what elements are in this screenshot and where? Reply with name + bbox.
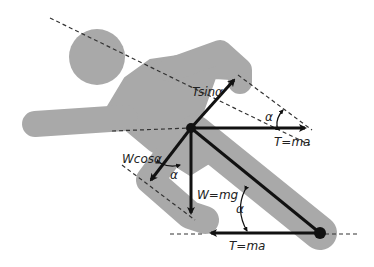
alpha-lower-label: α <box>236 202 244 216</box>
alpha-upper-arc <box>277 110 283 126</box>
runner-back-arm <box>35 118 125 124</box>
w-mg-label: W=mg <box>197 188 239 202</box>
runner-head <box>69 29 125 85</box>
alpha-left-label: α <box>170 168 178 182</box>
w-cos-label: Wcosα <box>122 152 162 166</box>
foot-contact-dot <box>314 227 326 239</box>
t-sin-label: Tsinα <box>192 85 223 99</box>
t-ma-upper-label: T=ma <box>274 135 310 149</box>
center-of-mass-dot <box>186 123 196 133</box>
free-body-diagram: Tsinα T=ma α Wcosα α W=mg α T=ma <box>0 0 374 267</box>
runner-silhouette <box>35 29 320 233</box>
alpha-upper-label: α <box>265 110 273 124</box>
t-ma-lower-label: T=ma <box>229 239 265 253</box>
